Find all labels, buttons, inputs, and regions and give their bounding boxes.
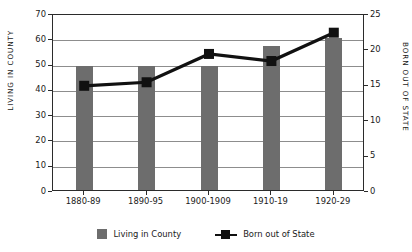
chart-legend: Living in County Born out of State	[0, 229, 412, 239]
line-square-swatch-icon	[215, 229, 237, 239]
line-marker	[266, 56, 276, 66]
x-tick-mark	[83, 191, 84, 195]
left-tick-mark	[48, 115, 52, 116]
left-axis-title: LIVING IN COUNTY	[6, 30, 15, 111]
x-tick-mark	[146, 191, 147, 195]
right-tick-mark	[364, 85, 368, 86]
left-tick-label: 60	[26, 35, 46, 43]
line-marker	[142, 77, 152, 87]
x-tick-mark	[270, 191, 271, 195]
right-tick-label: 15	[370, 80, 390, 88]
line-series-born-out-of-state	[53, 15, 365, 192]
right-tick-label: 20	[370, 45, 390, 53]
legend-label-born-out-of-state: Born out of State	[243, 229, 314, 239]
x-axis-label: 1920-29	[293, 196, 373, 206]
chart-container: LIVING IN COUNTY BORN OUT OF STATE 01020…	[0, 0, 412, 252]
left-tick-label: 50	[26, 60, 46, 68]
left-tick-label: 30	[26, 111, 46, 119]
right-tick-mark	[364, 120, 368, 121]
x-tick-mark	[333, 191, 334, 195]
bar-swatch-icon	[97, 229, 107, 239]
right-tick-label: 5	[370, 151, 390, 159]
line-path	[84, 33, 334, 86]
left-tick-mark	[48, 140, 52, 141]
line-marker	[79, 81, 89, 91]
left-tick-mark	[48, 90, 52, 91]
legend-label-living-in-county: Living in County	[113, 229, 181, 239]
line-markers	[79, 28, 339, 91]
right-tick-label: 10	[370, 116, 390, 124]
right-tick-mark	[364, 14, 368, 15]
right-tick-mark	[364, 49, 368, 50]
x-tick-mark	[208, 191, 209, 195]
left-tick-label: 70	[26, 10, 46, 18]
legend-item-born-out-of-state: Born out of State	[215, 229, 314, 239]
left-tick-mark	[48, 14, 52, 15]
left-tick-mark	[48, 166, 52, 167]
right-tick-label: 25	[370, 10, 390, 18]
left-tick-label: 20	[26, 136, 46, 144]
left-tick-label: 10	[26, 161, 46, 169]
plot-area	[52, 14, 364, 191]
left-tick-mark	[48, 65, 52, 66]
left-tick-mark	[48, 39, 52, 40]
left-tick-label: 0	[26, 187, 46, 195]
right-tick-label: 0	[370, 187, 390, 195]
legend-item-living-in-county: Living in County	[97, 229, 181, 239]
right-tick-mark	[364, 156, 368, 157]
right-axis-title: BORN OUT OF STATE	[401, 42, 410, 132]
left-tick-label: 40	[26, 85, 46, 93]
line-marker	[329, 28, 339, 38]
left-tick-mark	[48, 191, 52, 192]
right-tick-mark	[364, 191, 368, 192]
line-marker	[204, 49, 214, 59]
